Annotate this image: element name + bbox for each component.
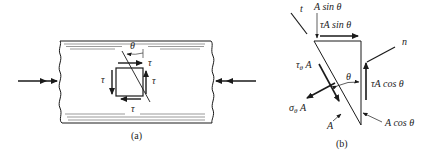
caption-b: (b) bbox=[336, 138, 348, 150]
angle-theta-label-b: θ bbox=[346, 71, 351, 82]
n-axis-line bbox=[367, 47, 395, 62]
rod-bottom-hatching bbox=[65, 114, 205, 120]
force-right-label: τA cos θ bbox=[371, 78, 404, 89]
panel-a: θ τ τ τ τ (a) bbox=[18, 40, 256, 142]
normal-inclined-label: σθ A bbox=[289, 102, 307, 115]
area-right-label: A cos θ bbox=[384, 117, 414, 128]
panel-b: t n A sin θ τA sin θ τA cos θ A cos θ A … bbox=[289, 1, 414, 150]
t-axis-label: t bbox=[300, 3, 303, 14]
area-hypotenuse-label: A bbox=[326, 120, 334, 131]
area-right-pointer bbox=[363, 113, 382, 122]
n-axis-label: n bbox=[402, 36, 407, 47]
left-load-arrow bbox=[18, 78, 57, 84]
shear-inclined-label: τθ A bbox=[296, 59, 313, 72]
shear-inclined-arrow bbox=[319, 64, 339, 101]
area-hypotenuse-pointer bbox=[333, 114, 341, 121]
caption-a: (a) bbox=[131, 130, 142, 142]
normal-inclined-arrow bbox=[307, 83, 335, 98]
tau-label-bottom: τ bbox=[131, 103, 135, 114]
t-axis-line bbox=[291, 13, 307, 34]
triangular-element bbox=[314, 41, 361, 125]
tau-label-right: τ bbox=[152, 75, 156, 86]
force-top-label: τA sin θ bbox=[320, 19, 351, 30]
right-load-arrow bbox=[216, 78, 256, 84]
tau-label-left: τ bbox=[101, 74, 105, 85]
rod-body bbox=[59, 41, 214, 123]
area-top-label: A sin θ bbox=[313, 1, 342, 12]
tau-label-top: τ bbox=[148, 57, 152, 68]
stress-transformation-diagram: θ τ τ τ τ (a) t n A sin θ τA sin θ τA bbox=[0, 0, 426, 155]
angle-theta-arc-b bbox=[337, 82, 359, 86]
angle-theta-label-a: θ bbox=[130, 40, 135, 51]
